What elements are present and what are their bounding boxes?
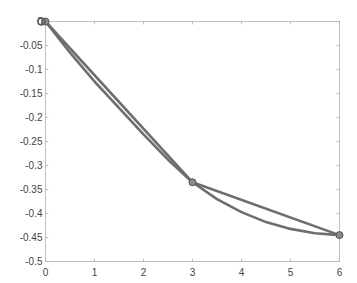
x-axis-ticks: 0123456 [43, 22, 343, 278]
series-piecewise-linear [46, 22, 340, 236]
y-tick-label: -0.25 [20, 136, 43, 147]
y-tick-label: -0.1 [25, 64, 43, 75]
y-tick-label: -0.35 [20, 184, 43, 195]
x-tick-label: 4 [239, 267, 245, 278]
y-tick-label: -0.45 [20, 232, 43, 243]
y-tick-label: -0.5 [25, 256, 43, 267]
data-point-marker [336, 232, 343, 239]
plot-frame [46, 22, 340, 262]
x-tick-label: 1 [92, 267, 98, 278]
x-tick-label: 2 [141, 267, 147, 278]
data-markers [38, 18, 343, 239]
plot-series [46, 22, 340, 236]
x-tick-label: 6 [337, 267, 343, 278]
y-tick-label: -0.3 [25, 160, 43, 171]
x-tick-label: 5 [288, 267, 294, 278]
y-tick-label: -0.4 [25, 208, 43, 219]
data-point-marker [189, 179, 196, 186]
axes-box [46, 22, 340, 262]
chart: 0123456 0-0.05-0.1-0.15-0.2-0.25-0.3-0.3… [0, 0, 357, 283]
y-tick-label: -0.05 [20, 40, 43, 51]
series-smooth-curve [46, 22, 340, 236]
y-tick-label: -0.15 [20, 88, 43, 99]
y-tick-label: -0.2 [25, 112, 43, 123]
x-tick-label: 0 [43, 267, 49, 278]
x-tick-label: 3 [190, 267, 196, 278]
